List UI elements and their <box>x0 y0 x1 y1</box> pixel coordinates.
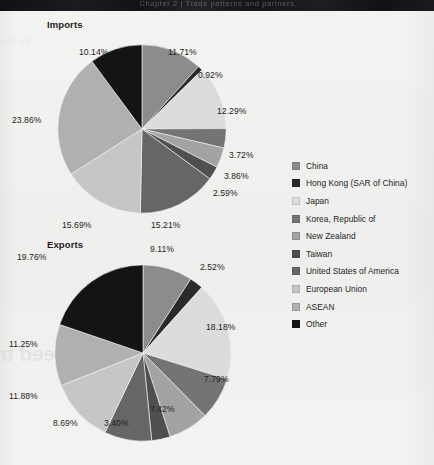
legend-item-label: China <box>306 161 328 171</box>
legend-swatch-icon <box>292 215 300 223</box>
pie-slice-percent-label: 19.76% <box>17 252 46 262</box>
legend-swatch-icon <box>292 320 300 328</box>
legend-swatch-icon <box>292 267 300 275</box>
legend-item-label: Taiwan <box>306 249 332 259</box>
pie-slice-percent-label: 15.21% <box>151 220 180 230</box>
pie-slice-percent-label: 15.69% <box>62 220 91 230</box>
pie-slice-percent-label: 2.52% <box>200 262 225 272</box>
legend-swatch-icon <box>292 285 300 293</box>
pie-slice-percent-label: 8.69% <box>53 418 78 428</box>
pie-slice-percent-label: 11.88% <box>9 391 38 401</box>
pie-slice-percent-label: 9.11% <box>150 244 174 254</box>
legend-swatch-icon <box>292 303 300 311</box>
legend-item-label: European Union <box>306 284 367 294</box>
legend-item-label: Korea, Republic of <box>306 214 375 224</box>
exports-chart-block: Exports 9.11%2.52%18.18%7.79%7.42%3.40%8… <box>0 236 290 465</box>
legend-item[interactable]: Other <box>292 315 432 333</box>
exports-pie-chart <box>54 264 232 442</box>
legend-item[interactable]: Hong Kong (SAR of China) <box>292 175 432 193</box>
legend-item[interactable]: New Zealand <box>292 227 432 245</box>
pie-slice-percent-label: 2.59% <box>213 188 238 198</box>
pie-slice-percent-label: 18.18% <box>206 322 235 332</box>
exports-chart-title: Exports <box>47 239 83 250</box>
pie-slice-percent-label: 0.92% <box>198 70 223 80</box>
legend-swatch-icon <box>292 250 300 258</box>
legend-item-label: ASEAN <box>306 302 335 312</box>
pie-slice-percent-label: 3.72% <box>229 150 254 160</box>
legend-swatch-icon <box>292 179 300 187</box>
legend-item[interactable]: ASEAN <box>292 298 432 316</box>
pie-slice-percent-label: 11.25% <box>9 339 38 349</box>
legend-item[interactable]: Taiwan <box>292 245 432 263</box>
imports-chart-block: Imports 11.71%0.92%12.29%3.72%3.86%2.59%… <box>0 11 290 236</box>
scanned-page: the structure of merchandise trade by pa… <box>0 0 434 465</box>
legend-item[interactable]: Korea, Republic of <box>292 210 432 228</box>
pie-slice-percent-label: 23.86% <box>12 115 41 125</box>
pie-slice-percent-label: 3.86% <box>224 171 249 181</box>
legend-item-label: United States of America <box>306 266 399 276</box>
page-header-bar: Chapter 2 | Trade patterns and partners <box>0 0 434 11</box>
legend-item-label: Hong Kong (SAR of China) <box>306 178 407 188</box>
legend-item-label: Japan <box>306 196 329 206</box>
pie-slice-percent-label: 11.71% <box>168 47 197 57</box>
pie-slice-percent-label: 10.14% <box>79 47 108 57</box>
pie-slice-percent-label: 7.79% <box>204 374 229 384</box>
imports-chart-title: Imports <box>47 19 83 30</box>
legend-item[interactable]: Japan <box>292 192 432 210</box>
chart-legend: ChinaHong Kong (SAR of China)JapanKorea,… <box>292 157 432 333</box>
legend-swatch-icon <box>292 162 300 170</box>
page-header-text: Chapter 2 | Trade patterns and partners <box>0 0 434 8</box>
exports-pie-svg <box>54 264 232 442</box>
legend-item-label: Other <box>306 319 327 329</box>
legend-swatch-icon <box>292 232 300 240</box>
legend-item[interactable]: United States of America <box>292 263 432 281</box>
pie-slice-percent-label: 7.42% <box>150 404 175 414</box>
legend-item[interactable]: European Union <box>292 280 432 298</box>
pie-slice-percent-label: 12.29% <box>217 106 246 116</box>
legend-item[interactable]: China <box>292 157 432 175</box>
legend-swatch-icon <box>292 197 300 205</box>
pie-slice-percent-label: 3.40% <box>104 418 129 428</box>
legend-item-label: New Zealand <box>306 231 356 241</box>
